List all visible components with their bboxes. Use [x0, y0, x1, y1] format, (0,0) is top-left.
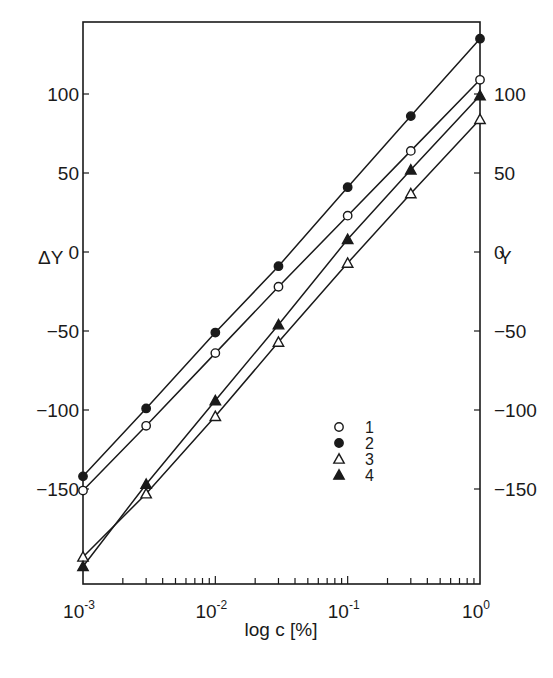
x-tick-label: 10-1	[328, 598, 360, 622]
y-right-tick-label: −150	[494, 479, 537, 500]
y-right-tick-label: −50	[494, 321, 526, 342]
y-left-tick-label: 0	[68, 242, 79, 263]
data-point-series-1	[407, 147, 415, 155]
data-point-series-2	[79, 472, 87, 480]
y-axis-title-left: ΔY	[38, 247, 64, 268]
y-left-tick-label: −50	[47, 321, 79, 342]
y-right-tick-label: 100	[494, 84, 526, 105]
x-axis-ticks: 10-310-210-1100	[63, 576, 490, 622]
x-tick-label-base: 10	[462, 601, 483, 622]
y-axis-title-right: Y	[499, 247, 512, 268]
x-tick-label-base: 10	[195, 601, 216, 622]
series-layer	[78, 35, 485, 571]
x-tick-label-base: 10	[63, 601, 84, 622]
y-right-tick-label: 50	[494, 163, 515, 184]
data-point-series-2	[274, 262, 282, 270]
data-point-series-4	[475, 90, 485, 99]
data-point-series-2	[407, 112, 415, 120]
data-point-series-2	[211, 328, 219, 336]
legend-label: 3	[365, 451, 374, 468]
x-tick-label-exponent: 0	[483, 598, 490, 612]
data-point-series-2	[343, 183, 351, 191]
legend-marker-4	[334, 470, 344, 479]
y-axis-ticks: 100500−50−100−150100500−50−100−150	[36, 84, 537, 500]
x-tick-label: 100	[462, 598, 490, 622]
x-tick-label-exponent: -1	[349, 598, 360, 612]
data-point-series-1	[343, 211, 351, 219]
y-left-tick-label: −100	[36, 400, 79, 421]
y-left-tick-label: 50	[58, 163, 79, 184]
x-tick-label: 10-2	[195, 598, 227, 622]
legend-marker-1	[335, 423, 343, 431]
data-point-series-1	[211, 349, 219, 357]
data-point-series-1	[476, 76, 484, 84]
x-tick-label: 10-3	[63, 598, 95, 622]
y-left-tick-label: −150	[36, 479, 79, 500]
x-axis-title: log c [%]	[245, 619, 318, 640]
data-point-series-1	[142, 422, 150, 430]
data-point-series-1	[79, 486, 87, 494]
x-tick-label-base: 10	[328, 601, 349, 622]
data-point-series-2	[476, 35, 484, 43]
x-tick-label-exponent: -3	[84, 598, 95, 612]
data-point-series-1	[274, 283, 282, 291]
x-tick-label-exponent: -2	[217, 598, 228, 612]
y-left-tick-label: 100	[47, 84, 79, 105]
data-point-series-3	[475, 114, 485, 123]
legend-label: 4	[365, 467, 374, 484]
series-line-3	[83, 119, 480, 557]
legend: 1234	[334, 419, 374, 484]
legend-marker-3	[334, 454, 344, 463]
data-point-series-2	[142, 404, 150, 412]
chart: 10-310-210-1100 100500−50−100−150100500−…	[0, 0, 553, 678]
y-right-tick-label: −100	[494, 400, 537, 421]
legend-label: 1	[365, 419, 374, 436]
legend-marker-2	[335, 439, 343, 447]
legend-label: 2	[365, 435, 374, 452]
